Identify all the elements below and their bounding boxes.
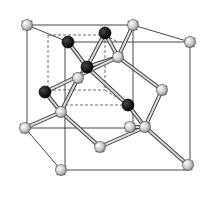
atom-sphere bbox=[99, 27, 111, 39]
light-atom bbox=[157, 85, 168, 96]
bond bbox=[61, 112, 100, 147]
light-atom bbox=[95, 142, 106, 153]
atom-sphere bbox=[56, 165, 67, 176]
light-atom bbox=[113, 52, 124, 63]
bond bbox=[87, 67, 128, 105]
atom-sphere bbox=[22, 20, 33, 31]
bond bbox=[118, 57, 162, 90]
light-atom bbox=[56, 165, 67, 176]
bond bbox=[145, 90, 162, 127]
light-atom bbox=[20, 123, 31, 134]
atom-sphere bbox=[73, 73, 84, 84]
dark-atom bbox=[81, 61, 93, 73]
light-atom bbox=[22, 20, 33, 31]
atom-sphere bbox=[125, 122, 136, 133]
light-atom bbox=[56, 107, 67, 118]
light-atom bbox=[128, 20, 139, 31]
dark-atom bbox=[39, 86, 51, 98]
light-atom bbox=[125, 122, 136, 133]
atom-sphere bbox=[56, 107, 67, 118]
atom-sphere bbox=[157, 85, 168, 96]
atom-sphere bbox=[128, 20, 139, 31]
light-atom bbox=[183, 160, 194, 171]
light-atom bbox=[140, 122, 151, 133]
atom-sphere bbox=[183, 160, 194, 171]
atom-sphere bbox=[81, 61, 93, 73]
bond bbox=[25, 112, 61, 128]
bond bbox=[100, 127, 145, 147]
atom-sphere bbox=[185, 37, 196, 48]
light-atom bbox=[73, 73, 84, 84]
atom-sphere bbox=[62, 36, 74, 48]
dark-atom bbox=[62, 36, 74, 48]
crystal-structure-diagram bbox=[0, 0, 213, 200]
atom-sphere bbox=[122, 99, 134, 111]
dark-atom bbox=[99, 27, 111, 39]
light-atom bbox=[185, 37, 196, 48]
atom-sphere bbox=[20, 123, 31, 134]
atom-sphere bbox=[95, 142, 106, 153]
atom-sphere bbox=[113, 52, 124, 63]
dark-atom bbox=[122, 99, 134, 111]
atom-sphere bbox=[39, 86, 51, 98]
atom-sphere bbox=[140, 122, 151, 133]
bond bbox=[145, 127, 188, 165]
